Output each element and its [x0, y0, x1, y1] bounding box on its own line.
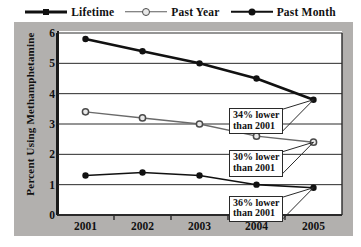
- chart-figure: Lifetime Past Year Past Month Percent Us…: [0, 0, 361, 247]
- annotation-callout-past-month: 36% lower than 2001: [229, 196, 283, 223]
- annotation-callout-lifetime: 34% lower than 2001: [229, 108, 283, 135]
- x-axis-tick-2003: 2003: [188, 220, 211, 232]
- annotation-line-2: than 2001: [233, 121, 279, 132]
- x-axis-tick-2002: 2002: [131, 220, 154, 232]
- annotation-line-2: than 2001: [233, 208, 279, 219]
- annotation-line-2: than 2001: [233, 163, 279, 174]
- annotation-line-1: 34% lower: [233, 110, 279, 121]
- x-axis-tick-2005: 2005: [302, 220, 325, 232]
- x-axis-tick-2001: 2001: [74, 220, 97, 232]
- chart-canvas: [0, 0, 361, 247]
- annotation-callout-past-year: 30% lower than 2001: [229, 150, 283, 177]
